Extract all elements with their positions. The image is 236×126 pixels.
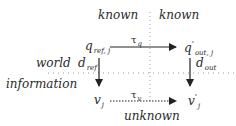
node-v-base: v xyxy=(94,93,101,107)
node-q-out-base: q xyxy=(184,41,192,55)
edge-label-tau-q: τq xyxy=(131,30,142,48)
edge-label-d-ref: dref xyxy=(78,57,97,72)
tau-q-base: τ xyxy=(131,34,137,45)
label-world: world xyxy=(36,57,71,69)
d-ref-sub: ref xyxy=(87,64,97,72)
node-v-sub: j xyxy=(102,101,104,109)
tau-q-sub: q xyxy=(138,40,142,48)
node-q-ref-base: q xyxy=(85,39,93,53)
edge-label-d-out: dout xyxy=(196,57,216,72)
node-v-prime-base: v xyxy=(188,94,195,108)
node-q-ref: qref, j xyxy=(85,40,110,55)
label-unknown: unknown xyxy=(124,110,180,122)
label-known-left: known xyxy=(98,9,138,21)
d-out-sub: out xyxy=(205,64,217,72)
tau-v-sub: v xyxy=(138,95,142,103)
node-v-prime-prime: ' xyxy=(195,92,197,101)
d-ref-base: d xyxy=(78,56,86,70)
node-v-prime: v'j xyxy=(188,93,200,110)
node-v-prime-sub: j xyxy=(198,102,200,110)
edge-label-tau-v: τv xyxy=(131,85,142,103)
node-q-ref-sub: ref, j xyxy=(94,47,110,55)
node-q-out-prime: ' xyxy=(192,39,194,48)
node-v: vj xyxy=(94,94,104,109)
d-out-base: d xyxy=(196,56,204,70)
node-q-out: q'out, j xyxy=(184,40,213,57)
label-information: information xyxy=(6,78,77,90)
tau-v-base: τ xyxy=(131,89,137,100)
label-known-right: known xyxy=(159,9,199,21)
